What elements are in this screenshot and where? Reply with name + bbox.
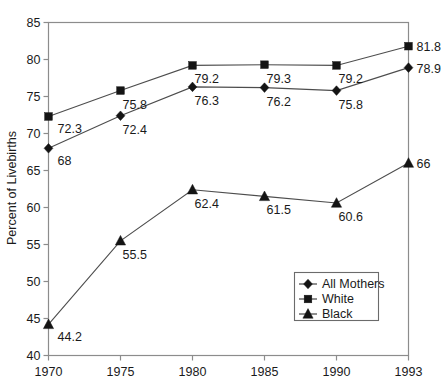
y-tick-label: 65 — [27, 164, 41, 178]
data-point-label-black: 61.5 — [267, 203, 291, 217]
data-point-label-black: 60.6 — [339, 210, 363, 224]
data-point-label-all-mothers: 76.2 — [267, 95, 291, 109]
legend-label-white: White — [322, 292, 354, 306]
y-tick-label: 60 — [27, 201, 41, 215]
chart-background — [0, 0, 446, 387]
y-axis-title: Percent of Livebirths — [5, 131, 19, 245]
line-chart: Percent of Livebirths 404550556065707580… — [0, 0, 446, 387]
data-point-white — [405, 42, 413, 50]
data-point-white — [333, 62, 341, 70]
x-tick-label: 1990 — [323, 365, 351, 379]
y-tick-label: 50 — [27, 275, 41, 289]
data-point-label-all-mothers: 72.4 — [123, 123, 147, 137]
legend-marker-white — [304, 295, 312, 303]
y-tick-label: 85 — [27, 16, 41, 30]
x-tick-label: 1980 — [179, 365, 207, 379]
data-point-label-black: 55.5 — [123, 248, 147, 262]
data-point-white — [261, 61, 269, 69]
x-tick-label: 1970 — [35, 365, 63, 379]
data-point-label-all-mothers: 78.9 — [417, 62, 441, 76]
data-point-label-white: 79.3 — [267, 72, 291, 86]
y-tick-label: 70 — [27, 127, 41, 141]
data-point-label-white: 72.3 — [58, 122, 82, 136]
legend-label-black: Black — [322, 307, 353, 321]
data-point-label-all-mothers: 75.8 — [339, 98, 363, 112]
y-tick-label: 55 — [27, 238, 41, 252]
data-point-label-black: 44.2 — [58, 330, 82, 344]
y-tick-label: 45 — [27, 312, 41, 326]
data-point-label-black: 66 — [417, 157, 431, 171]
data-point-label-white: 79.2 — [339, 72, 363, 86]
chart-legend: All MothersWhiteBlack — [295, 273, 385, 321]
data-point-label-all-mothers: 76.3 — [195, 94, 219, 108]
chart-container: Percent of Livebirths 404550556065707580… — [0, 0, 446, 387]
y-tick-label: 75 — [27, 90, 41, 104]
data-point-label-white: 79.2 — [195, 72, 219, 86]
legend-label-all-mothers: All Mothers — [322, 277, 385, 291]
data-point-label-white: 81.8 — [417, 40, 441, 54]
data-point-label-all-mothers: 68 — [58, 154, 72, 168]
y-axis-title-text: Percent of Livebirths — [5, 131, 19, 245]
data-point-white — [189, 62, 197, 70]
x-tick-label: 1993 — [395, 365, 423, 379]
data-point-label-white: 75.8 — [123, 98, 147, 112]
x-tick-label: 1975 — [107, 365, 135, 379]
data-point-label-black: 62.4 — [195, 197, 219, 211]
data-point-white — [45, 113, 53, 121]
y-tick-label: 80 — [27, 53, 41, 67]
x-tick-label: 1985 — [251, 365, 279, 379]
data-point-white — [117, 87, 125, 95]
y-tick-label: 40 — [27, 349, 41, 363]
